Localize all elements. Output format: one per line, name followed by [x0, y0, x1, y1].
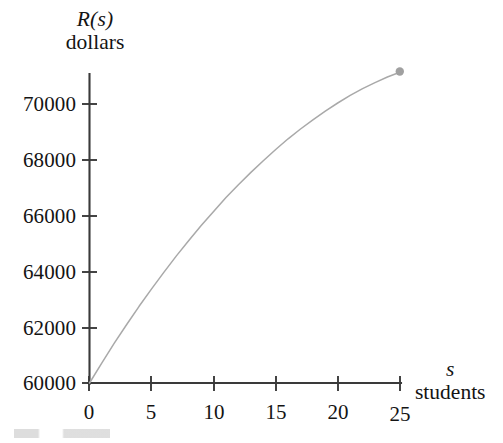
y-tick-label-60000: 60000 — [0, 373, 76, 394]
y-tick-label-70000: 70000 — [0, 94, 76, 115]
x-tick-label-25: 25 — [389, 404, 410, 425]
y-tick-label-68000: 68000 — [0, 150, 76, 171]
revenue-curve-line — [90, 72, 400, 383]
y-tick-label-66000: 66000 — [0, 206, 76, 227]
x-tick-label-15: 15 — [265, 402, 286, 423]
y-tick-label-64000: 64000 — [0, 262, 76, 283]
x-tick-label-5: 5 — [146, 402, 157, 423]
curve-endpoint-marker — [396, 67, 404, 75]
y-axis-title: R(s) dollars — [47, 8, 143, 54]
x-axis-title: s students — [415, 358, 485, 404]
y-axis-symbol: R(s) — [47, 8, 143, 31]
y-axis-unit: dollars — [47, 31, 143, 54]
x-tick-label-20: 20 — [327, 402, 348, 423]
x-tick-label-0: 0 — [84, 402, 95, 423]
revenue-curve-figure: R(s) dollars 70000 68000 66000 64000 620… — [0, 0, 503, 443]
y-tick-label-62000: 62000 — [0, 318, 76, 339]
x-tick-label-10: 10 — [203, 402, 224, 423]
x-axis-unit: students — [415, 381, 485, 404]
x-axis-symbol: s — [415, 358, 485, 381]
